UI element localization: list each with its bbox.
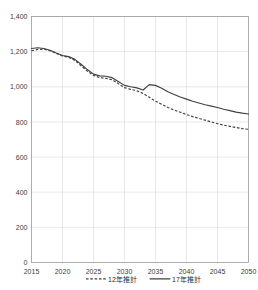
x-tick-label: 2030: [117, 268, 133, 275]
y-tick-label: 200: [16, 224, 28, 231]
y-tick-label: 600: [16, 154, 28, 161]
chart-legend: 12年推計17年推計: [86, 275, 201, 284]
x-tick-label: 2045: [210, 268, 226, 275]
x-tick-label: 2040: [179, 268, 195, 275]
x-tick-label: 2020: [55, 268, 71, 275]
x-tick-label: 2050: [241, 268, 257, 275]
y-tick-label: 800: [16, 119, 28, 126]
chart-container: 02004006008001,0001,2001,400 20152020202…: [0, 0, 258, 290]
y-tick-label: 1,000: [10, 83, 28, 90]
x-tick-label: 2025: [86, 268, 102, 275]
x-tick-label: 2035: [148, 268, 164, 275]
gridlines: [32, 17, 249, 263]
line-chart: 02004006008001,0001,2001,400 20152020202…: [0, 0, 258, 290]
y-tick-label: 400: [16, 189, 28, 196]
ghost-header-text: [4, 0, 254, 10]
data-series-group: [32, 48, 249, 130]
y-tick-label: 1,400: [10, 13, 28, 20]
y-tick-label: 1,200: [10, 48, 28, 55]
y-tick-label: 0: [24, 259, 28, 266]
x-axis-tick-labels: 20152020202520302035204020452050: [24, 268, 257, 275]
x-tick-label: 2015: [24, 268, 40, 275]
plot-frame: [32, 17, 249, 263]
y-axis-tick-labels: 02004006008001,0001,2001,400: [10, 13, 28, 266]
legend-label: 17年推計: [172, 275, 201, 284]
series-solid: [32, 48, 249, 114]
legend-label: 12年推計: [108, 275, 137, 284]
